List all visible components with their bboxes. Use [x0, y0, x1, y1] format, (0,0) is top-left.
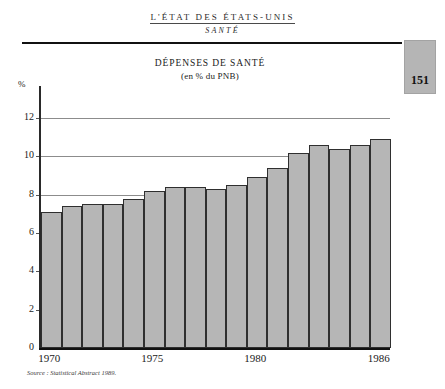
- bar-1973: [103, 204, 124, 348]
- x-axis-line: [39, 348, 390, 350]
- bar-chart: % 246810120 1970197519801986: [0, 0, 445, 389]
- y-tick-label-10: 10: [12, 149, 34, 160]
- bar-1977: [185, 187, 206, 348]
- bar-1982: [288, 153, 309, 349]
- x-tick-label-1986: 1986: [368, 352, 390, 364]
- bar-1981: [267, 168, 288, 348]
- y-tick-label-8: 8: [12, 188, 34, 199]
- bar-1983: [309, 145, 330, 348]
- x-tick-label-1980: 1980: [244, 352, 266, 364]
- bar-1985: [350, 145, 371, 348]
- bar-1984: [329, 149, 350, 348]
- bar-1986: [370, 139, 391, 348]
- y-tick-label-0: 0: [12, 341, 34, 352]
- bar-1972: [82, 204, 103, 348]
- bar-1970: [41, 212, 62, 348]
- bar-1976: [165, 187, 186, 348]
- bar-1978: [206, 189, 227, 348]
- bar-1975: [144, 191, 165, 348]
- x-tick-label-1970: 1970: [38, 352, 60, 364]
- bar-1971: [62, 206, 83, 348]
- y-tick-label-12: 12: [12, 111, 34, 122]
- y-axis-unit-label: %: [18, 79, 26, 89]
- y-tick-label-4: 4: [12, 264, 34, 275]
- y-tick-label-2: 2: [12, 303, 34, 314]
- bar-series: [41, 86, 389, 348]
- y-tick-label-6: 6: [12, 226, 34, 237]
- bar-1979: [226, 185, 247, 348]
- source-note: Source : Statistical Abstract 1989.: [27, 369, 116, 376]
- bar-1974: [123, 199, 144, 349]
- x-tick-label-1975: 1975: [141, 352, 163, 364]
- bar-1980: [247, 177, 268, 348]
